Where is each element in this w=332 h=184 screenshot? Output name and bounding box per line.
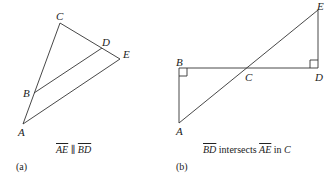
segment-bd	[34, 48, 102, 93]
sublabel-b: (b)	[176, 162, 188, 172]
point-label-b: B	[176, 57, 183, 68]
point-label-d: D	[315, 72, 323, 83]
caption-a: AE ∥ BD	[56, 145, 91, 155]
segment-bd-label: BD	[78, 144, 91, 155]
right-angle-mark-b	[179, 68, 187, 76]
point-label-e: E	[317, 1, 324, 12]
geometry-figures	[0, 0, 332, 184]
point-label-c: C	[56, 11, 63, 22]
segment-ae-label: AE	[56, 144, 68, 155]
segment-ce	[60, 23, 120, 59]
intersects-text: intersects	[216, 144, 259, 155]
right-angle-mark-d	[310, 60, 318, 68]
point-label-e: E	[123, 49, 130, 60]
intersection-point-label: C	[284, 144, 291, 155]
sublabel-a: (a)	[16, 162, 27, 172]
point-label-b: B	[23, 88, 30, 99]
figure-b-lines	[179, 10, 318, 123]
point-label-c: C	[245, 72, 252, 83]
segment-ac	[23, 23, 60, 124]
point-label-a: A	[18, 127, 25, 138]
segment-ae	[179, 10, 318, 123]
in-text: in	[271, 144, 284, 155]
caption-b: BD intersects AE in C	[203, 145, 291, 155]
point-label-d: D	[102, 37, 110, 48]
segment-ae	[23, 59, 120, 124]
parallel-symbol: ∥	[68, 144, 78, 155]
segment-bd-label: BD	[203, 144, 216, 155]
segment-ae-label: AE	[259, 144, 271, 155]
point-label-a: A	[176, 126, 183, 137]
